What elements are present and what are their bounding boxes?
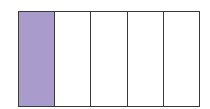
unshaded-part [91, 12, 127, 106]
unshaded-part [128, 12, 164, 106]
unshaded-part [164, 12, 199, 106]
shaded-part [19, 12, 55, 106]
unshaded-part [55, 12, 91, 106]
fraction-bar-model [18, 11, 200, 107]
